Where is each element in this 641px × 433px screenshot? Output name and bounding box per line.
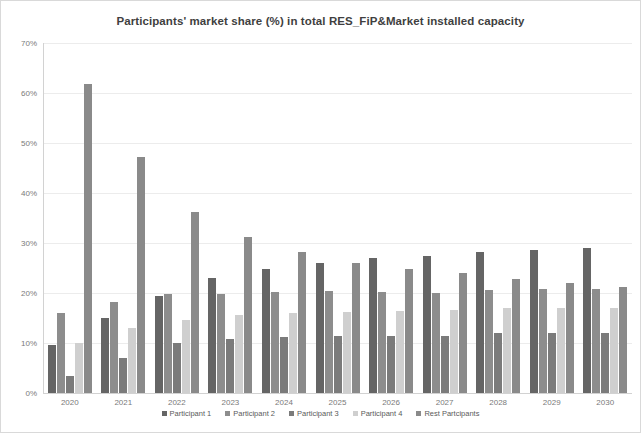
x-axis-tick-label: 2024 (257, 394, 311, 407)
bar[interactable] (423, 256, 431, 394)
legend-label: Participant 2 (233, 409, 275, 418)
bar[interactable] (530, 250, 538, 394)
bar[interactable] (110, 302, 118, 394)
bar-group (471, 43, 525, 393)
bar-group (578, 43, 632, 393)
bar-group (150, 43, 204, 393)
legend-item[interactable]: Participant 3 (289, 409, 339, 418)
bar-groups (43, 43, 632, 393)
legend-label: Participant 3 (297, 409, 339, 418)
bar[interactable] (566, 283, 574, 394)
legend-label: Participant 4 (361, 409, 403, 418)
bar[interactable] (601, 333, 609, 393)
bar[interactable] (494, 333, 502, 393)
bar[interactable] (48, 345, 56, 394)
x-axis-tick-label: 2020 (43, 394, 97, 407)
bar[interactable] (119, 358, 127, 393)
bar[interactable] (396, 311, 404, 393)
x-axis-tick-label: 2026 (364, 394, 418, 407)
bar[interactable] (217, 294, 225, 394)
legend-swatch-icon (162, 411, 167, 416)
x-axis-tick-labels: 2020202120222023202420252026202720282029… (43, 394, 632, 407)
bar[interactable] (57, 313, 65, 393)
bar-group (364, 43, 418, 393)
bar[interactable] (280, 337, 288, 394)
bar[interactable] (155, 296, 163, 394)
bar[interactable] (476, 252, 484, 393)
y-axis-tick-label: 10% (0, 339, 37, 348)
bar[interactable] (325, 291, 333, 394)
x-axis-tick-label: 2027 (418, 394, 472, 407)
y-axis-tick-label: 30% (0, 239, 37, 248)
bar[interactable] (173, 343, 181, 393)
y-axis-line (43, 43, 44, 394)
x-axis-tick-label: 2023 (204, 394, 258, 407)
bar-group (204, 43, 258, 393)
bar[interactable] (289, 313, 297, 394)
bar[interactable] (450, 310, 458, 393)
legend-label: Participant 1 (170, 409, 212, 418)
bar[interactable] (503, 308, 511, 393)
bar[interactable] (298, 252, 306, 393)
bar[interactable] (137, 157, 145, 394)
legend-label: Rest Partcipants (424, 409, 479, 418)
bar-group (418, 43, 472, 393)
bar[interactable] (343, 312, 351, 394)
bar[interactable] (369, 258, 377, 393)
bar[interactable] (271, 292, 279, 393)
bar[interactable] (378, 292, 386, 394)
bar[interactable] (66, 376, 74, 394)
bar[interactable] (619, 287, 627, 394)
bar[interactable] (208, 278, 216, 393)
bar[interactable] (164, 294, 172, 393)
bar[interactable] (539, 289, 547, 393)
plot-area (43, 43, 632, 393)
bar-group (257, 43, 311, 393)
bar[interactable] (191, 212, 199, 394)
bar[interactable] (128, 328, 136, 393)
bar[interactable] (226, 339, 234, 393)
bar[interactable] (235, 315, 243, 394)
bar[interactable] (244, 237, 252, 393)
bar[interactable] (512, 279, 520, 394)
bar[interactable] (387, 336, 395, 393)
legend-item[interactable]: Participant 2 (225, 409, 275, 418)
bar[interactable] (334, 336, 342, 394)
bar[interactable] (352, 263, 360, 393)
bar[interactable] (441, 336, 449, 393)
y-axis-tick-label: 60% (0, 89, 37, 98)
bar[interactable] (101, 318, 109, 393)
bar[interactable] (405, 269, 413, 394)
chart-legend: Participant 1Participant 2Participant 3P… (1, 409, 640, 418)
x-axis-tick-label: 2025 (311, 394, 365, 407)
legend-item[interactable]: Rest Partcipants (416, 409, 479, 418)
chart-container: Participants' market share (%) in total … (0, 0, 641, 433)
bar[interactable] (262, 269, 270, 393)
legend-swatch-icon (416, 411, 421, 416)
y-axis-tick-label: 40% (0, 189, 37, 198)
bar[interactable] (548, 333, 556, 393)
bar[interactable] (557, 308, 565, 393)
legend-item[interactable]: Participant 4 (353, 409, 403, 418)
bar[interactable] (485, 290, 493, 393)
y-axis-tick-label: 20% (0, 289, 37, 298)
bar[interactable] (592, 289, 600, 393)
legend-swatch-icon (289, 411, 294, 416)
x-axis-tick-label: 2029 (525, 394, 579, 407)
bar[interactable] (583, 248, 591, 393)
bar[interactable] (316, 263, 324, 393)
x-axis-tick-label: 2022 (150, 394, 204, 407)
bar[interactable] (432, 293, 440, 394)
bar[interactable] (84, 84, 92, 393)
bar[interactable] (610, 308, 618, 393)
legend-item[interactable]: Participant 1 (162, 409, 212, 418)
bar[interactable] (75, 343, 83, 393)
x-axis-tick-label: 2028 (471, 394, 525, 407)
legend-swatch-icon (225, 411, 230, 416)
bar[interactable] (459, 273, 467, 393)
bar[interactable] (182, 320, 190, 394)
bar-group (311, 43, 365, 393)
bar-group (97, 43, 151, 393)
chart-title: Participants' market share (%) in total … (1, 15, 640, 27)
bar-group (43, 43, 97, 393)
